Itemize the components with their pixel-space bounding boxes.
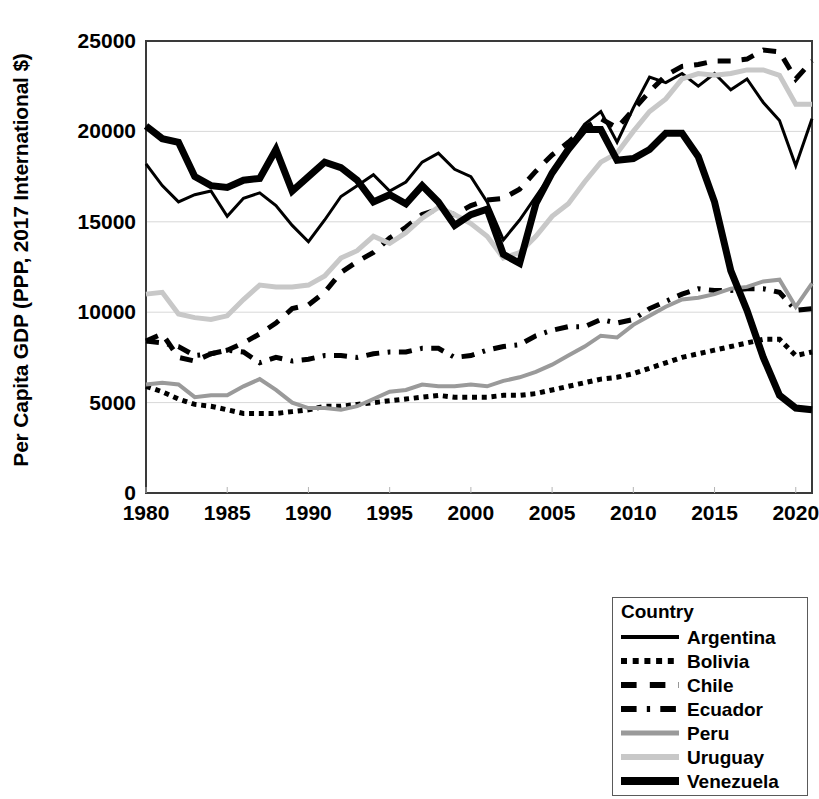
legend-item-label: Ecuador (687, 700, 763, 719)
legend-item[interactable]: Venezuela (613, 769, 807, 793)
x-tick-label: 2010 (610, 501, 657, 525)
legend-item-label: Bolivia (687, 652, 749, 671)
legend-line-sample-uruguay (619, 749, 681, 765)
legend-item-label: Argentina (687, 628, 776, 647)
x-tick-label: 2015 (691, 501, 738, 525)
legend-item-label: Chile (687, 676, 733, 695)
x-tick-label: 2000 (448, 501, 495, 525)
legend-item[interactable]: Ecuador (613, 697, 807, 721)
x-tick-label: 1980 (123, 501, 170, 525)
legend-item[interactable]: Chile (613, 673, 807, 697)
x-tick-label: 1985 (204, 501, 251, 525)
x-tick-label: 2005 (529, 501, 576, 525)
legend-item[interactable]: Bolivia (613, 649, 807, 673)
legend-item[interactable]: Peru (613, 721, 807, 745)
legend-item-label: Peru (687, 724, 729, 743)
legend-line-sample-chile (619, 677, 681, 693)
legend-item-label: Uruguay (687, 748, 764, 767)
legend: Country ArgentinaBoliviaChileEcuadorPeru… (612, 597, 808, 796)
legend-item[interactable]: Argentina (613, 625, 807, 649)
legend-line-sample-peru (619, 725, 681, 741)
legend-items: ArgentinaBoliviaChileEcuadorPeruUruguayV… (613, 625, 807, 793)
legend-line-sample-venezuela (619, 773, 681, 789)
x-tick-label: 2020 (772, 501, 819, 525)
legend-line-sample-ecuador (619, 701, 681, 717)
legend-title: Country (621, 601, 694, 623)
legend-item[interactable]: Uruguay (613, 745, 807, 769)
legend-line-sample-bolivia (619, 653, 681, 669)
x-tick-label: 1990 (285, 501, 332, 525)
x-tick-label: 1995 (366, 501, 413, 525)
legend-line-sample-argentina (619, 629, 681, 645)
legend-item-label: Venezuela (687, 772, 779, 791)
